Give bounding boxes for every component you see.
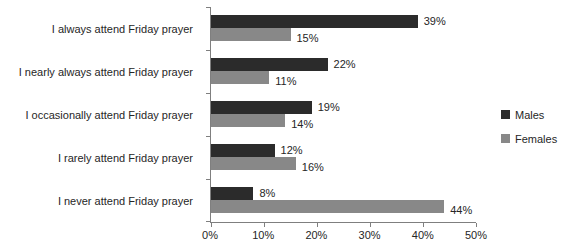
bar-males (211, 187, 253, 200)
legend-label: Females (515, 133, 557, 145)
value-label-males: 39% (424, 15, 446, 28)
x-axis-tick (423, 223, 424, 227)
category-label: I never attend Friday prayer (0, 179, 202, 222)
legend-entry-females: Females (501, 131, 557, 146)
value-label-females: 16% (302, 161, 324, 174)
y-axis-tick (206, 7, 211, 8)
x-axis-tick (264, 223, 265, 227)
legend-swatch-females (501, 134, 510, 143)
value-label-females: 11% (275, 75, 296, 88)
bar-females (211, 200, 444, 213)
x-axis-tick-label: 0% (202, 229, 218, 241)
legend: MalesFemales (501, 107, 557, 155)
x-axis-tick-label: 50% (465, 229, 487, 241)
y-axis-tick (206, 93, 211, 94)
value-label-females: 44% (450, 204, 472, 217)
bar-females (211, 157, 296, 170)
legend-entry-males: Males (501, 107, 557, 122)
value-label-males: 22% (334, 58, 356, 71)
value-label-females: 14% (291, 118, 313, 131)
x-axis-tick (476, 223, 477, 227)
bar-males (211, 101, 312, 114)
bar-females (211, 71, 269, 84)
bar-group: 22%11% (211, 50, 476, 93)
value-label-males: 8% (259, 187, 275, 200)
bar-chart: I always attend Friday prayerI nearly al… (0, 0, 571, 249)
x-axis-tick (211, 223, 212, 227)
bar-males (211, 144, 275, 157)
bar-group: 12%16% (211, 136, 476, 179)
y-axis-tick (206, 179, 211, 180)
x-axis-tick-label: 40% (412, 229, 434, 241)
category-label: I rarely attend Friday prayer (0, 136, 202, 179)
bar-females (211, 28, 291, 41)
category-label: I occasionally attend Friday prayer (0, 93, 202, 136)
plot-area: 39%15%22%11%19%14%12%16%8%44% (210, 7, 476, 223)
bar-females (211, 114, 285, 127)
category-labels: I always attend Friday prayerI nearly al… (0, 7, 202, 222)
y-axis-tick (206, 136, 211, 137)
y-axis-tick (206, 221, 211, 222)
legend-swatch-males (501, 110, 510, 119)
category-label: I always attend Friday prayer (0, 7, 202, 50)
bar-group: 19%14% (211, 93, 476, 136)
x-axis-labels: 0%10%20%30%40%50% (210, 229, 476, 243)
value-label-males: 19% (318, 101, 340, 114)
bar-males (211, 58, 328, 71)
value-label-females: 15% (297, 32, 319, 45)
legend-label: Males (515, 109, 544, 121)
x-axis-tick (317, 223, 318, 227)
bar-males (211, 15, 418, 28)
x-axis-tick (370, 223, 371, 227)
x-axis-tick-label: 10% (252, 229, 274, 241)
bar-group: 39%15% (211, 7, 476, 50)
x-axis-tick-label: 30% (359, 229, 381, 241)
x-axis-tick-label: 20% (305, 229, 327, 241)
bar-group: 8%44% (211, 179, 476, 222)
category-label: I nearly always attend Friday prayer (0, 50, 202, 93)
y-axis-tick (206, 50, 211, 51)
value-label-males: 12% (281, 144, 303, 157)
